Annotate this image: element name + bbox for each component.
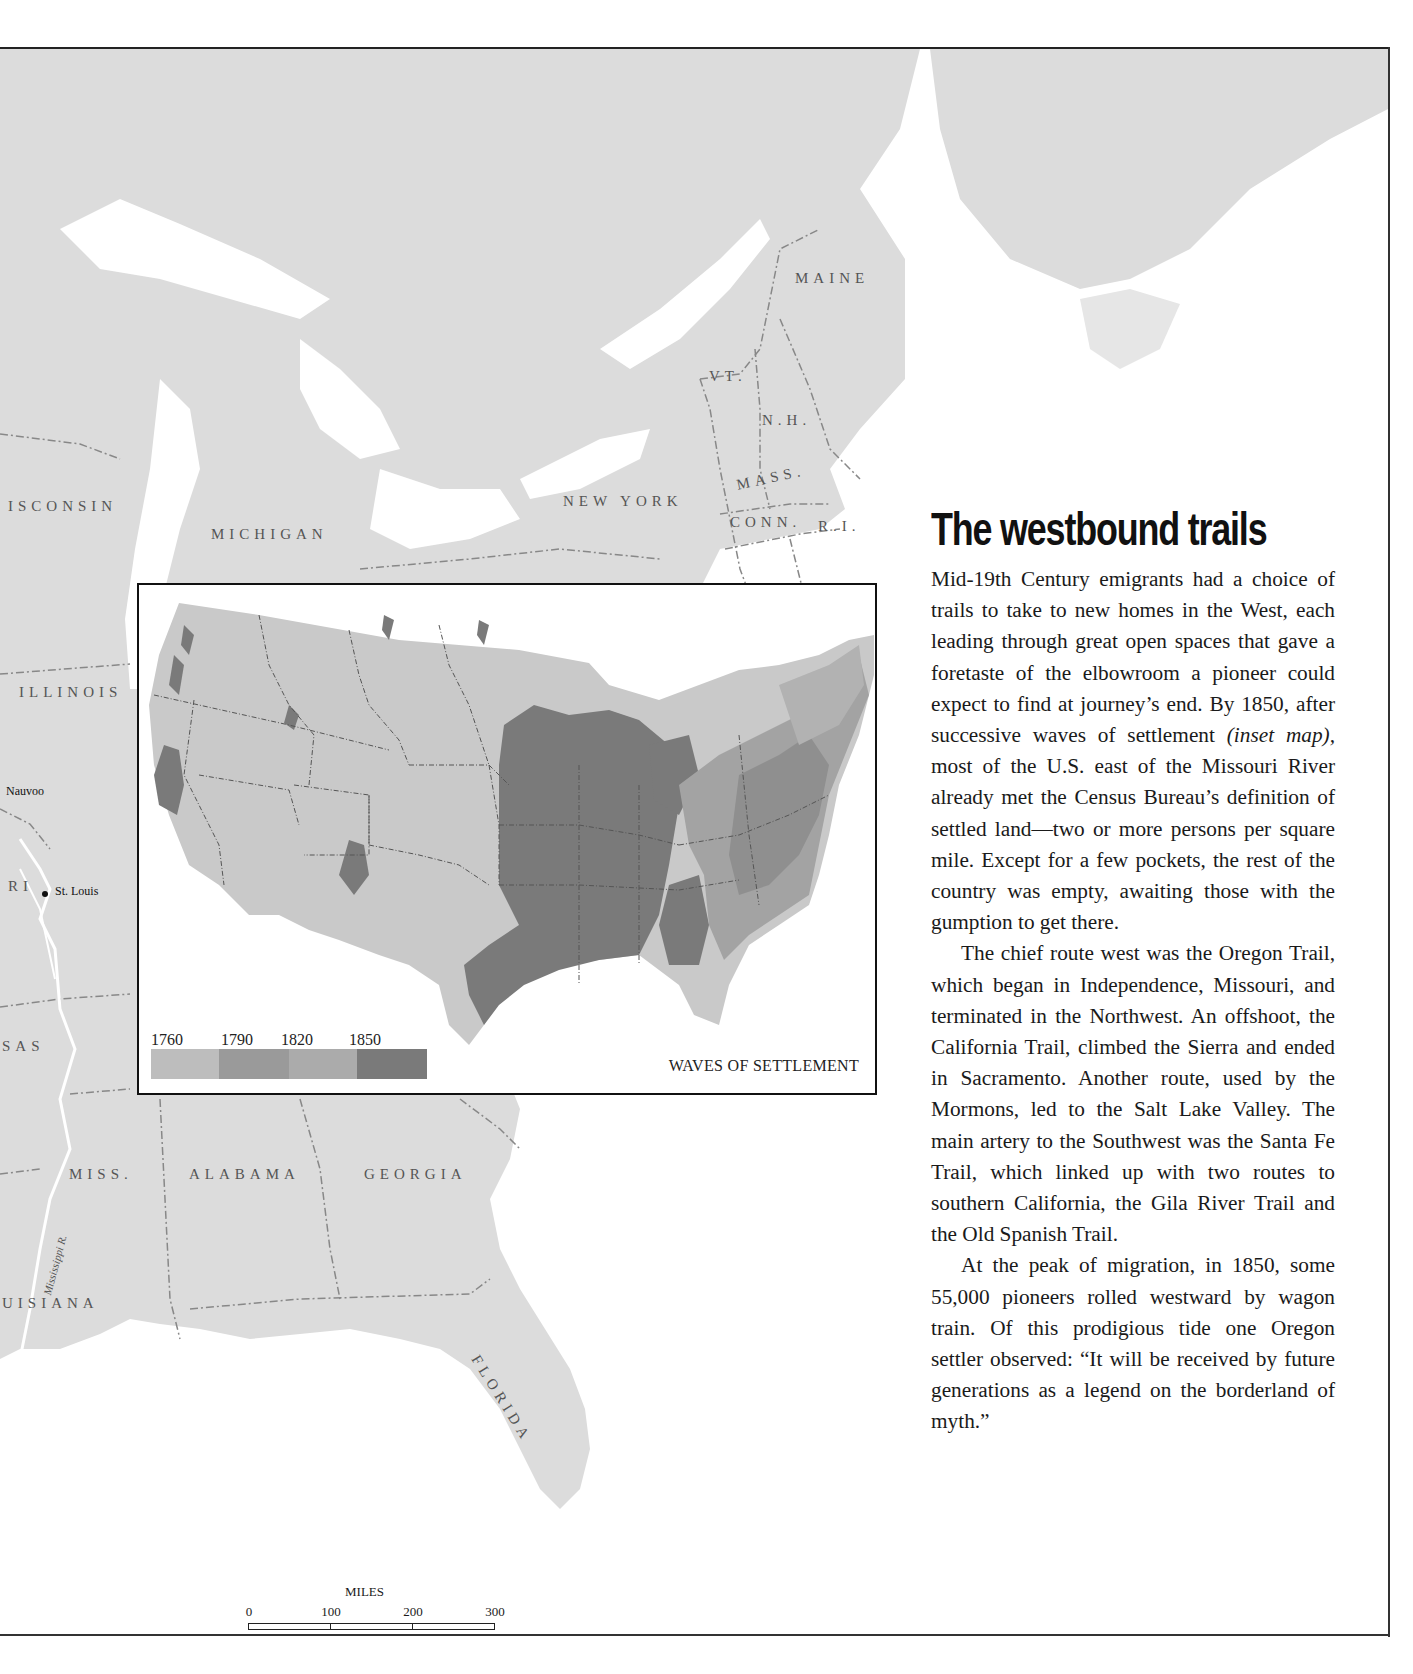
article-column: The westbound trails Mid-19th Century em… xyxy=(931,500,1335,1438)
scale-tick-0: 0 xyxy=(246,1604,253,1620)
state-label-miss: MISS. xyxy=(69,1166,133,1183)
state-label-missouri: RI xyxy=(8,878,33,895)
state-label-new-york: NEW YORK xyxy=(563,493,683,510)
legend-swatch-1760 xyxy=(151,1049,219,1079)
city-label-nauvoo: Nauvoo xyxy=(6,784,44,799)
state-label-vt: VT. xyxy=(709,368,747,385)
paragraph-1: Mid-19th Century emigrants had a choice … xyxy=(931,564,1335,938)
state-label-arkansas: SAS xyxy=(2,1038,45,1055)
inset-map-waves-of-settlement: 1760179018201850 WAVES OF SETTLEMENT xyxy=(137,583,877,1095)
legend-swatch-1850 xyxy=(357,1049,427,1079)
article-title: The westbound trails xyxy=(931,500,1246,558)
scale-divider xyxy=(330,1624,331,1629)
scale-tick-100: 100 xyxy=(321,1604,341,1620)
paragraph-3: At the peak of migration, in 1850, some … xyxy=(931,1250,1335,1437)
legend-year-1790: 1790 xyxy=(221,1031,253,1049)
legend-swatch-1790 xyxy=(219,1049,289,1079)
state-label-wisconsin: ISCONSIN xyxy=(8,498,117,515)
state-label-maine: MAINE xyxy=(795,270,869,287)
state-label-louisiana: UISIANA xyxy=(2,1295,99,1312)
city-label-st-louis: St. Louis xyxy=(55,884,98,899)
state-label-alabama: ALABAMA xyxy=(189,1166,300,1183)
scale-divider xyxy=(412,1624,413,1629)
paragraph-1-text-a: Mid-19th Century emigrants had a choice … xyxy=(931,567,1335,747)
state-label-conn: CONN. xyxy=(730,514,801,531)
scale-bar: MILES 0 100 200 300 xyxy=(245,1584,505,1634)
legend-year-1760: 1760 xyxy=(151,1031,183,1049)
legend-swatch-1820 xyxy=(289,1049,357,1079)
scale-title: MILES xyxy=(345,1584,384,1600)
frame-bottom-rule xyxy=(0,1634,1390,1636)
scale-tick-300: 300 xyxy=(485,1604,505,1620)
inset-title: WAVES OF SETTLEMENT xyxy=(669,1057,859,1075)
state-label-illinois: ILLINOIS xyxy=(19,684,122,701)
state-label-nh: N.H. xyxy=(762,412,811,429)
inset-map-shapes xyxy=(139,585,875,1093)
scale-bar-rule xyxy=(248,1623,495,1630)
legend-year-1850: 1850 xyxy=(349,1031,381,1049)
scale-tick-200: 200 xyxy=(403,1604,423,1620)
paragraph-1-text-b: most of the U.S. east of the Missouri Ri… xyxy=(931,754,1335,934)
paragraph-2: The chief route west was the Oregon Trai… xyxy=(931,938,1335,1250)
city-dot-st-louis xyxy=(42,891,48,897)
state-label-georgia: GEORGIA xyxy=(364,1166,467,1183)
inset-map-reference: (inset map), xyxy=(1227,723,1335,747)
state-label-michigan: MICHIGAN xyxy=(211,526,328,543)
legend-year-1820: 1820 xyxy=(281,1031,313,1049)
frame-right-rule xyxy=(1388,47,1390,1637)
state-label-ri: R.I. xyxy=(818,518,861,535)
